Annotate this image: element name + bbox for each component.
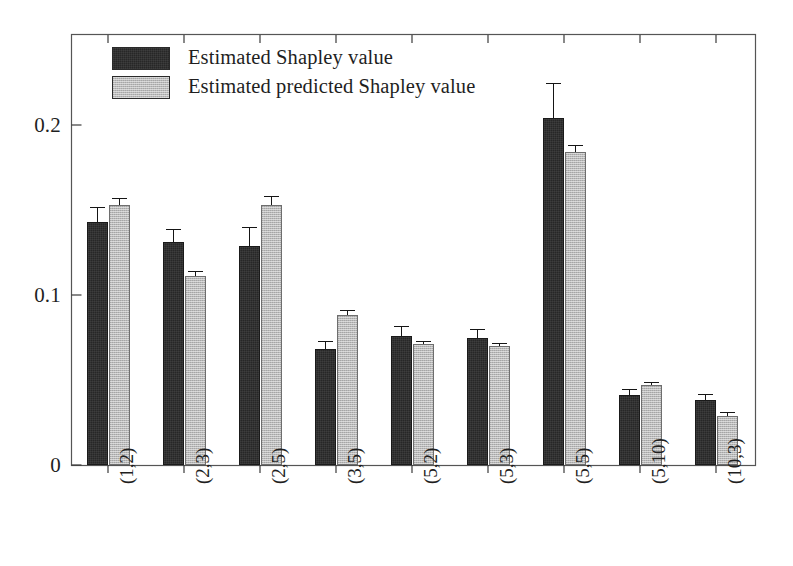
x-tick-label-23: (2,3) [192,448,214,484]
x-tick-label-12: (1,2) [116,448,138,484]
x-tick-label-35: (3,5) [344,448,366,484]
x-tick-label-103: (10,3) [724,438,746,484]
x-tick-label-53: (5,3) [496,448,518,484]
x-tick-label-25: (2,5) [268,448,290,484]
x-tick-label-55: (5,5) [572,448,594,484]
bar-chart-figure: 0.2 0.1 0 Estimated Shapley value Estima… [0,0,793,566]
x-tick-label-510: (5,10) [648,438,670,484]
x-tick-labels-layer: (1,2)(2,3)(2,5)(3,5)(5,2)(5,3)(5,5)(5,10… [0,0,793,566]
x-tick-label-52: (5,2) [420,448,442,484]
